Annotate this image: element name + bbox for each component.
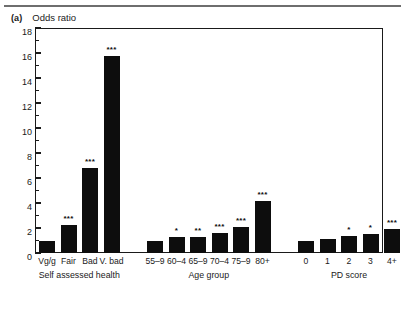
y-axis-tick-label: 10 [2,128,32,137]
x-axis-tick-label: 3 [368,256,373,267]
bar [190,237,206,253]
y-axis-tick-label: 16 [2,53,32,62]
y-axis-tick-label: 0 [2,253,32,262]
bar [61,225,77,253]
x-axis-tick-label: 55–9 [145,256,164,267]
bars-layer: ************************** [35,28,383,253]
x-axis-tick-label: 70–4 [210,256,229,267]
x-axis-tick-label: Fair [61,256,76,267]
y-axis-tick-label: 18 [2,28,32,37]
y-axis-tick-label: 8 [2,153,32,162]
x-axis-tick-label: 4+ [387,256,397,267]
x-axis-tick-label: 65–9 [188,256,207,267]
bar [233,227,249,253]
group-label: PD score [331,270,367,281]
y-axis-tick-label: 12 [2,103,32,112]
bar [169,237,185,253]
y-axis-tick-label: 14 [2,78,32,87]
y-axis-tick-label: 2 [2,228,32,237]
significance-marker: ** [195,228,202,234]
significance-marker: *** [257,192,267,198]
x-axis-tick-label: 80+ [255,256,270,267]
bar [212,233,228,253]
odds-ratio-bar-chart: 024681012141618 ************************… [0,0,405,311]
bar [104,56,120,254]
x-axis-tick-labels: Vg/gFairBadV. bad55–960–465–970–475–980+… [35,256,383,270]
group-label: Age group [188,270,229,281]
x-axis-tick-label: 1 [325,256,330,267]
bar [147,241,163,254]
x-axis-tick-label: 0 [304,256,309,267]
significance-marker: *** [85,159,95,165]
bar [384,229,400,253]
significance-marker: *** [236,218,246,224]
bar [341,236,357,253]
bar [39,241,55,254]
y-axis-tick-label: 4 [2,203,32,212]
bar [82,168,98,253]
x-axis-tick-label: V. bad [99,256,123,267]
significance-marker: *** [214,224,224,230]
group-label: Self assessed health [39,270,120,281]
significance-marker: * [175,228,178,234]
x-axis-tick-label: 60–4 [167,256,186,267]
significance-marker: * [347,227,350,233]
x-axis-tick-label: Bad [82,256,97,267]
significance-marker: * [369,225,372,231]
bar [363,234,379,253]
significance-marker: *** [106,47,116,53]
bar [255,201,271,254]
x-axis-tick-label: 2 [347,256,352,267]
significance-marker: *** [387,220,397,226]
x-axis-tick-label: Vg/g [38,256,56,267]
y-axis-tick-label: 6 [2,178,32,187]
x-axis-group-labels: Self assessed healthAge groupPD score [35,270,383,284]
bar [320,239,336,253]
bar [298,241,314,254]
significance-marker: *** [63,216,73,222]
x-axis-tick-label: 75–9 [231,256,250,267]
